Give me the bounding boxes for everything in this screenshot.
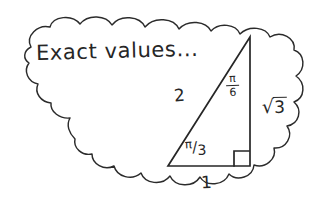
- fraction-numerator: π: [185, 138, 193, 150]
- triangle-label-vertical: √ 3: [262, 97, 287, 117]
- triangle-label-base: 1: [201, 172, 213, 192]
- triangle-label-angle-bottom: π / 3: [185, 137, 207, 155]
- fraction-numerator: π: [229, 73, 236, 84]
- fraction-denominator: 3: [197, 142, 207, 156]
- fraction-slanted: π / 3: [185, 139, 207, 155]
- sketch-canvas: Exact values... 2 1 √ 3 π 6 π / 3: [0, 0, 329, 222]
- right-angle-square: [234, 151, 249, 166]
- triangle-label-angle-top: π 6: [225, 67, 239, 98]
- triangle-label-hypotenuse: 2: [173, 85, 186, 106]
- fraction-stacked: π 6: [226, 73, 240, 98]
- page-title: Exact values...: [36, 37, 199, 65]
- fraction-denominator: 6: [229, 87, 236, 98]
- square-root-icon: √ 3: [262, 97, 287, 117]
- radicand-value: 3: [273, 97, 287, 117]
